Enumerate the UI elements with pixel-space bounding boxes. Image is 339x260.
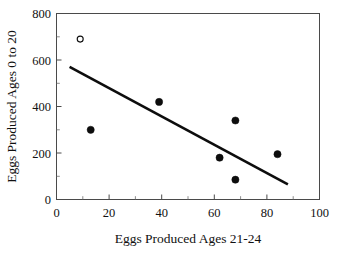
data-point xyxy=(87,126,94,133)
data-point xyxy=(232,176,239,183)
y-tick-label-600: 600 xyxy=(32,54,51,68)
y-tick-label-800: 800 xyxy=(32,7,51,21)
data-point-outlier xyxy=(77,36,83,42)
data-point xyxy=(274,151,281,158)
data-points-filled xyxy=(87,98,281,183)
x-tick-label-80: 80 xyxy=(261,206,274,220)
regression-line xyxy=(70,67,288,184)
y-tick-label-400: 400 xyxy=(32,100,51,114)
x-tick-label-100: 100 xyxy=(310,206,329,220)
x-tick-label-20: 20 xyxy=(103,206,116,220)
data-point xyxy=(232,117,239,124)
x-axis-title: Eggs Produced Ages 21-24 xyxy=(115,231,262,246)
y-axis-title: Eggs Produced Ages 0 to 20 xyxy=(4,30,19,183)
y-tick-label-0: 0 xyxy=(45,193,51,207)
data-points-open xyxy=(77,36,83,42)
data-point xyxy=(216,154,223,161)
x-tick-label-40: 40 xyxy=(155,206,168,220)
y-axis-major-ticks xyxy=(57,14,62,200)
y-tick-label-200: 200 xyxy=(32,147,51,161)
scatter-plot-figure: 0 200 400 600 800 0 20 40 60 80 100 Eggs… xyxy=(0,0,339,260)
data-point xyxy=(156,98,163,105)
plot-canvas: 0 200 400 600 800 0 20 40 60 80 100 Eggs… xyxy=(0,0,339,260)
plot-frame xyxy=(57,14,320,200)
x-tick-label-60: 60 xyxy=(208,206,221,220)
x-tick-label-0: 0 xyxy=(53,206,59,220)
